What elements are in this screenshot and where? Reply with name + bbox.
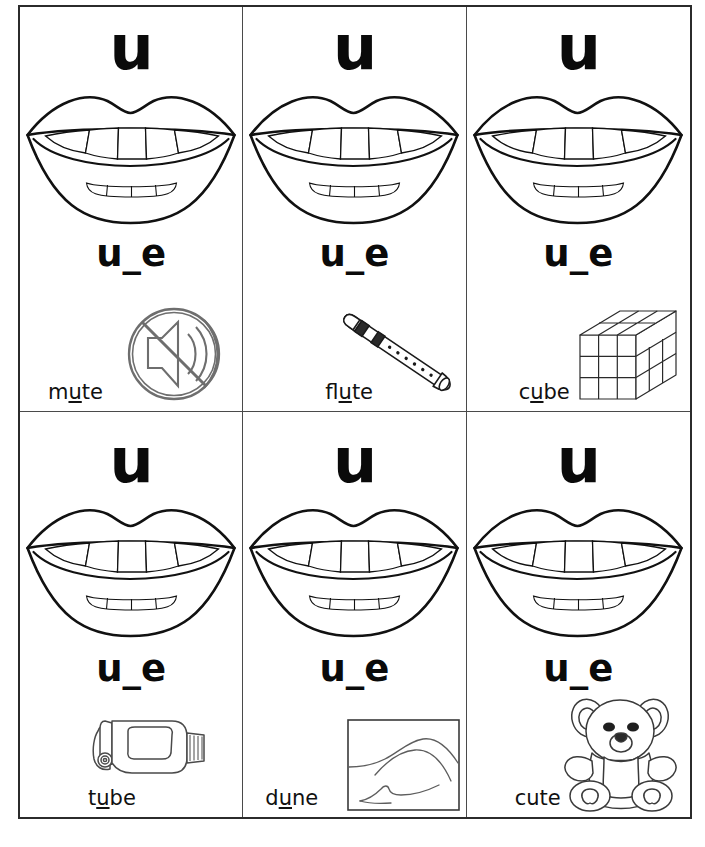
word-label: flute [325,382,373,403]
phonics-card-cube[interactable]: u [467,7,690,412]
phonics-card-flute[interactable]: u [243,7,466,412]
open-mouth-diagram [247,87,462,227]
word-label: tube [88,788,136,809]
open-mouth-diagram [24,87,239,227]
open-mouth-diagram [471,87,686,227]
big-letter: u [243,17,465,79]
phonics-card-tube[interactable]: u [20,412,243,817]
pattern-label: u_e [20,235,242,272]
cube-icon [574,303,682,405]
big-letter: u [467,17,690,79]
pattern-label: u_e [467,235,690,272]
pattern-label: u_e [243,650,465,687]
open-mouth-diagram [247,500,462,640]
toothpaste-tube-icon [72,711,210,783]
pattern-label: u_e [467,650,690,687]
phonics-card-mute[interactable]: u [20,7,243,412]
worksheet-page: u [0,0,705,847]
phonics-card-dune[interactable]: u [243,412,466,817]
big-letter: u [243,430,465,492]
word-label: cute [515,788,561,809]
word-label: mute [48,382,103,403]
sand-dune-picture [347,719,460,811]
teddy-bear-icon [560,691,682,815]
pattern-label: u_e [243,235,465,272]
pattern-label: u_e [20,650,242,687]
big-letter: u [20,17,242,79]
open-mouth-diagram [471,500,686,640]
word-label: dune [265,788,318,809]
card-grid: u [18,5,692,819]
open-mouth-diagram [24,500,239,640]
word-label: cube [519,382,570,403]
mute-speaker-icon [118,302,236,407]
big-letter: u [20,430,242,492]
phonics-card-cute[interactable]: u [467,412,690,817]
big-letter: u [467,430,690,492]
